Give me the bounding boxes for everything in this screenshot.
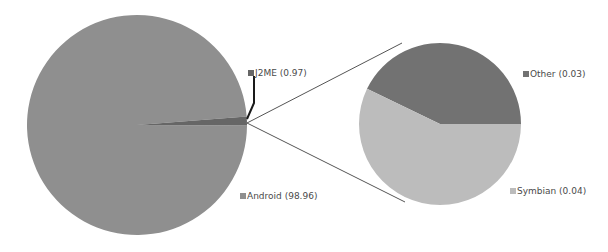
label-android-text: Android (98.96)	[247, 191, 317, 201]
label-symbian: Symbian (0.04)	[510, 186, 586, 196]
j2me-leader-line	[247, 76, 254, 119]
label-j2me-text: J2ME (0.97)	[255, 68, 307, 78]
android-swatch	[240, 193, 246, 199]
label-j2me: J2ME (0.97)	[248, 68, 307, 78]
label-other: Other (0.03)	[523, 69, 585, 79]
label-symbian-text: Symbian (0.04)	[517, 186, 586, 196]
label-android: Android (98.96)	[240, 191, 317, 201]
other-swatch	[523, 71, 529, 77]
label-other-text: Other (0.03)	[530, 69, 585, 79]
main-pie	[27, 15, 247, 235]
secondary-pie	[359, 43, 521, 205]
j2me-swatch	[248, 70, 254, 76]
pie-of-pie-chart	[0, 0, 608, 252]
symbian-swatch	[510, 188, 516, 194]
